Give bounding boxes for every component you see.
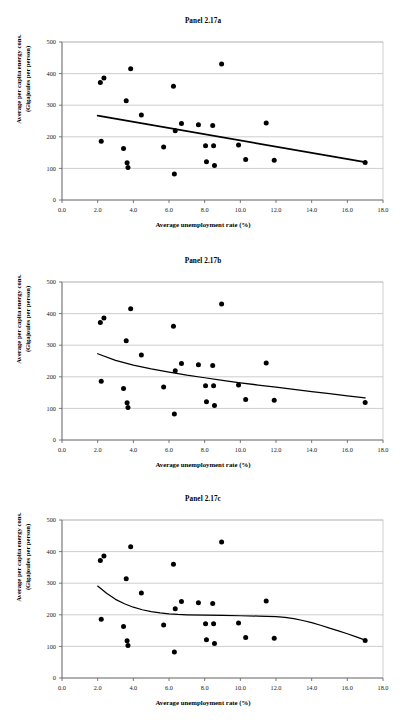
x-axis-tick-label: 4.0 bbox=[129, 446, 137, 453]
data-point bbox=[204, 159, 209, 164]
x-axis-tick-label: 8.0 bbox=[201, 446, 209, 453]
y-axis-tick-label: 500 bbox=[47, 278, 56, 285]
data-point bbox=[101, 554, 106, 559]
data-point bbox=[171, 84, 176, 89]
data-point bbox=[203, 383, 208, 388]
x-axis-tick-label: 0.0 bbox=[58, 206, 66, 213]
data-point bbox=[272, 398, 277, 403]
data-point bbox=[211, 621, 216, 626]
y-axis-tick-label: 200 bbox=[47, 133, 56, 140]
x-axis-tick-label: 10.0 bbox=[235, 446, 246, 453]
data-point bbox=[139, 113, 144, 118]
data-point bbox=[211, 143, 216, 148]
y-axis-tick-label: 300 bbox=[47, 579, 56, 586]
data-point bbox=[172, 172, 177, 177]
x-axis-tick-label: 10.0 bbox=[235, 206, 246, 213]
y-axis-tick-label: 0 bbox=[53, 674, 56, 681]
data-point bbox=[98, 320, 103, 325]
x-axis-tick-label: 6.0 bbox=[165, 206, 173, 213]
data-point bbox=[99, 617, 104, 622]
plot-area-a: 01002003004005000.02.04.06.08.010.012.01… bbox=[0, 0, 406, 240]
y-axis-tick-label: 400 bbox=[47, 70, 56, 77]
y-axis-tick-label: 100 bbox=[47, 405, 56, 412]
data-point bbox=[243, 397, 248, 402]
data-point bbox=[179, 599, 184, 604]
data-point bbox=[121, 386, 126, 391]
data-point bbox=[236, 383, 241, 388]
data-point bbox=[363, 400, 368, 405]
y-axis-tick-label: 200 bbox=[47, 611, 56, 618]
data-point bbox=[161, 384, 166, 389]
x-axis-tick-label: 16.0 bbox=[342, 684, 353, 691]
data-point bbox=[179, 121, 184, 126]
y-axis-tick-label: 100 bbox=[47, 643, 56, 650]
data-point bbox=[171, 324, 176, 329]
data-point bbox=[264, 598, 269, 603]
x-axis-label: Average unemployment rate (%) bbox=[0, 699, 406, 706]
x-axis-tick-label: 12.0 bbox=[270, 206, 281, 213]
data-point bbox=[272, 636, 277, 641]
data-point bbox=[211, 383, 216, 388]
x-axis-tick-label: 0.0 bbox=[58, 684, 66, 691]
data-point bbox=[243, 157, 248, 162]
x-axis-tick-label: 4.0 bbox=[129, 206, 137, 213]
data-point bbox=[264, 360, 269, 365]
data-point bbox=[219, 302, 224, 307]
data-point bbox=[124, 576, 129, 581]
data-point bbox=[236, 143, 241, 148]
figure-page: Panel 2.17a Average per capita energy co… bbox=[0, 0, 406, 720]
data-point bbox=[236, 621, 241, 626]
x-axis-tick-label: 2.0 bbox=[94, 206, 102, 213]
data-point bbox=[125, 160, 130, 165]
data-point bbox=[101, 76, 106, 81]
data-point bbox=[161, 144, 166, 149]
data-point bbox=[172, 412, 177, 417]
data-point bbox=[212, 163, 217, 168]
y-axis-tick-label: 200 bbox=[47, 373, 56, 380]
data-point bbox=[99, 139, 104, 144]
x-axis-tick-label: 14.0 bbox=[306, 446, 317, 453]
x-axis-tick-label: 14.0 bbox=[306, 206, 317, 213]
x-axis-tick-label: 6.0 bbox=[165, 446, 173, 453]
data-point bbox=[363, 638, 368, 643]
data-point bbox=[196, 362, 201, 367]
panel-2-17b: Panel 2.17b Average per capita energy co… bbox=[0, 240, 406, 480]
x-axis-tick-label: 18.0 bbox=[377, 206, 388, 213]
x-axis-tick-label: 18.0 bbox=[377, 446, 388, 453]
x-axis-tick-label: 16.0 bbox=[342, 206, 353, 213]
data-point bbox=[128, 66, 133, 71]
data-point bbox=[264, 120, 269, 125]
data-point bbox=[196, 600, 201, 605]
data-point bbox=[196, 122, 201, 127]
plot-area-b: 01002003004005000.02.04.06.08.010.012.01… bbox=[0, 240, 406, 480]
trend-line bbox=[98, 586, 366, 640]
y-axis-tick-label: 400 bbox=[47, 310, 56, 317]
data-point bbox=[179, 361, 184, 366]
y-axis-tick-label: 400 bbox=[47, 548, 56, 555]
x-axis-label: Average unemployment rate (%) bbox=[0, 461, 406, 468]
data-point bbox=[121, 146, 126, 151]
data-point bbox=[173, 128, 178, 133]
data-point bbox=[161, 622, 166, 627]
data-point bbox=[125, 638, 130, 643]
y-axis-tick-label: 0 bbox=[53, 196, 56, 203]
x-axis-tick-label: 4.0 bbox=[129, 684, 137, 691]
data-point bbox=[128, 306, 133, 311]
x-axis-tick-label: 6.0 bbox=[165, 684, 173, 691]
panel-2-17c: Panel 2.17c Average per capita energy co… bbox=[0, 478, 406, 718]
y-axis-tick-label: 500 bbox=[47, 38, 56, 45]
data-point bbox=[272, 158, 277, 163]
plot-area-c: 01002003004005000.02.04.06.08.010.012.01… bbox=[0, 478, 406, 718]
data-point bbox=[128, 544, 133, 549]
y-axis-tick-label: 300 bbox=[47, 341, 56, 348]
data-point bbox=[210, 123, 215, 128]
data-point bbox=[101, 316, 106, 321]
data-point bbox=[121, 624, 126, 629]
data-point bbox=[125, 643, 130, 648]
data-point bbox=[172, 650, 177, 655]
panel-2-17a: Panel 2.17a Average per capita energy co… bbox=[0, 0, 406, 240]
x-axis-tick-label: 2.0 bbox=[94, 684, 102, 691]
x-axis-tick-label: 8.0 bbox=[201, 684, 209, 691]
data-point bbox=[243, 635, 248, 640]
data-point bbox=[139, 591, 144, 596]
